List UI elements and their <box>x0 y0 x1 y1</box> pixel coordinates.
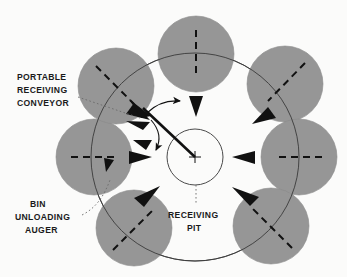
label-pit-line2: PIT <box>187 223 202 233</box>
label-pit-line1: RECEIVING <box>168 210 218 220</box>
label-portable-receiving-conveyor: PORTABLE RECEIVING CONVEYOR <box>17 72 69 108</box>
diagram-canvas: PORTABLE RECEIVING CONVEYOR BIN UNLOADIN… <box>0 0 347 277</box>
label-auger-line3: AUGER <box>25 225 58 235</box>
label-auger-line2: UNLOADING <box>15 212 70 222</box>
label-auger-line1: BIN <box>30 199 46 209</box>
label-portable-line3: CONVEYOR <box>17 98 69 108</box>
grain-bin-layout-diagram: PORTABLE RECEIVING CONVEYOR BIN UNLOADIN… <box>0 0 347 277</box>
label-portable-line2: RECEIVING <box>17 85 67 95</box>
label-portable-line1: PORTABLE <box>17 72 66 82</box>
